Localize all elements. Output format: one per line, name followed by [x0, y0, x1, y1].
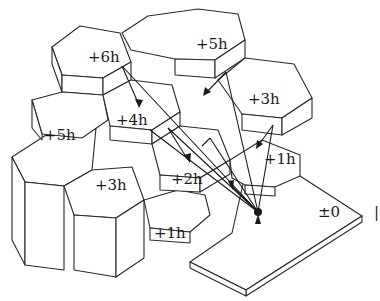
height-label-6h: +6h	[88, 50, 120, 65]
height-label-1h-right: +1h	[264, 152, 296, 167]
height-label-5h-left: +5h	[44, 128, 76, 143]
height-label-3h-right: +3h	[248, 92, 280, 107]
terrace-drawing	[0, 0, 380, 301]
height-label-1h-bottom: +1h	[154, 226, 186, 241]
height-label-5h-top: +5h	[196, 37, 228, 52]
height-label-2h: +2h	[171, 172, 203, 187]
hex-terrace-diagram: +6h +5h +5h +4h +3h +3h +2h +1h +1h ±0 |	[0, 0, 380, 301]
height-label-3h-left: +3h	[95, 178, 127, 193]
height-label-base: ±0	[318, 205, 340, 220]
edge-mark: |	[374, 205, 379, 220]
height-label-4h: +4h	[116, 113, 148, 128]
